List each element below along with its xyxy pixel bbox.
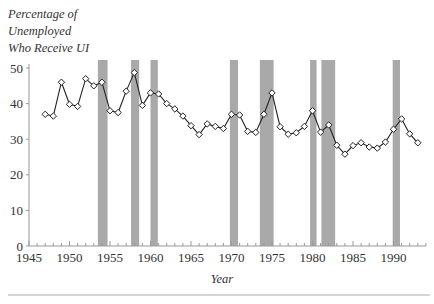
data-point-diamond [50,113,56,119]
data-point-diamond [66,101,72,107]
y-tick-label: 50 [10,61,23,76]
x-tick-label: 1985 [340,250,366,265]
data-point-diamond [366,144,372,150]
x-tick-label: 1970 [219,250,245,265]
data-point-diamond [107,108,113,114]
x-tick-label: 1960 [138,250,164,265]
data-point-diamond [58,79,64,85]
data-point-diamond [139,102,145,108]
x-tick-label: 1965 [178,250,204,265]
x-tick-label: 1950 [57,250,83,265]
data-point-diamond [253,129,259,135]
recession-bar [230,60,238,246]
chart: Percentage of Unemployed Who Receive UI … [0,0,434,304]
recession-bar [310,60,316,246]
y-tick-label: 10 [10,203,23,218]
data-point-diamond [115,109,121,115]
data-point-diamond [245,128,251,134]
recession-shading [98,60,400,246]
data-point-diamond [42,111,48,117]
axes: 0102030405019451950195519601965197019751… [10,61,426,266]
data-point-diamond [123,88,129,94]
data-point-diamond [358,140,364,146]
y-tick-label: 30 [10,132,23,147]
recession-bar [321,60,335,246]
x-tick-label: 1980 [300,250,326,265]
data-point-diamond [212,123,218,129]
data-point-diamond [74,103,80,109]
x-tick-label: 1955 [97,250,123,265]
x-tick-label: 1990 [381,250,407,265]
plot-area: 0102030405019451950195519601965197019751… [0,0,434,304]
recession-bar [260,60,274,246]
x-axis-label: Year [211,272,234,286]
x-tick-label: 1975 [259,250,285,265]
x-tick-label: 1945 [16,250,42,265]
recession-bar [98,60,108,246]
data-point-diamond [220,125,226,131]
y-tick-label: 20 [10,167,23,182]
recession-bar [151,60,158,246]
y-tick-label: 40 [10,96,23,111]
recession-bar [393,60,400,246]
